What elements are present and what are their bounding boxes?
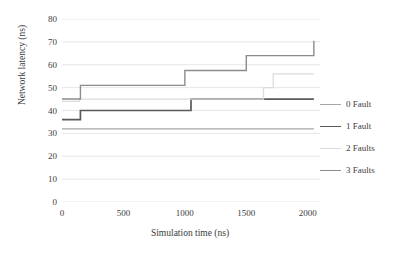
legend-item[interactable]: 1 Fault (320, 115, 396, 137)
legend-label: 3 Faults (346, 165, 375, 175)
plot-area (62, 19, 320, 202)
plot-canvas (62, 19, 320, 202)
y-tick-label: 30 (31, 128, 57, 138)
legend-label: 2 Faults (346, 143, 375, 153)
y-axis-title: Network latency (ns) (17, 0, 27, 145)
y-tick-label: 80 (31, 14, 57, 24)
chart-figure: Network latency (ns) Simulation time (ns… (0, 0, 397, 257)
y-tick-label: 70 (31, 37, 57, 47)
y-tick-label: 40 (31, 106, 57, 116)
y-tick-label: 10 (31, 174, 57, 184)
legend-swatch-icon (320, 170, 341, 171)
x-tick-label: 500 (103, 208, 143, 218)
y-tick-label: 20 (31, 151, 57, 161)
x-axis-title: Simulation time (ns) (55, 228, 325, 238)
x-tick-label: 1500 (226, 208, 266, 218)
series-lines (62, 41, 314, 129)
legend-item[interactable]: 2 Faults (320, 137, 396, 159)
legend-swatch-icon (320, 126, 341, 127)
legend-item[interactable]: 0 Fault (320, 93, 396, 115)
legend-label: 0 Fault (346, 99, 371, 109)
series-line (62, 41, 314, 99)
legend: 0 Fault1 Fault2 Faults3 Faults (320, 93, 396, 181)
legend-label: 1 Fault (346, 121, 371, 131)
x-tick-label: 0 (42, 208, 82, 218)
y-tick-label: 60 (31, 60, 57, 70)
legend-swatch-icon (320, 104, 341, 105)
y-tick-label: 0 (31, 197, 57, 207)
x-tick-label: 2000 (288, 208, 328, 218)
series-line (62, 99, 314, 120)
legend-swatch-icon (320, 148, 341, 149)
legend-item[interactable]: 3 Faults (320, 159, 396, 181)
y-tick-label: 50 (31, 83, 57, 93)
x-tick-label: 1000 (165, 208, 205, 218)
